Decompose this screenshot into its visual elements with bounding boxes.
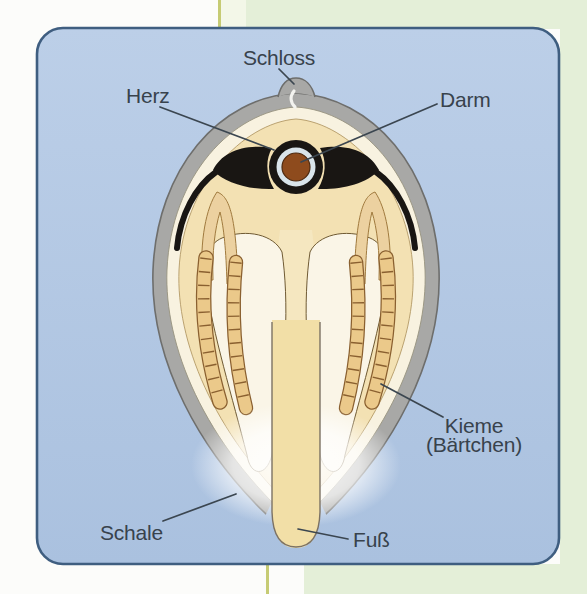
label-kieme-line2: (Bärtchen) xyxy=(410,435,538,454)
foot xyxy=(272,320,320,548)
label-fuss: Fuß xyxy=(353,529,390,550)
label-schale: Schale xyxy=(100,522,163,543)
label-herz: Herz xyxy=(126,85,170,106)
textbook-page: { "figure": { "labels": { "schloss": "Sc… xyxy=(0,0,587,594)
label-kieme: Kieme (Bärtchen) xyxy=(410,416,538,454)
label-darm: Darm xyxy=(440,89,491,110)
intestine xyxy=(282,153,310,181)
label-schloss: Schloss xyxy=(243,47,315,68)
mussel-cross-section-diagram xyxy=(0,0,587,594)
